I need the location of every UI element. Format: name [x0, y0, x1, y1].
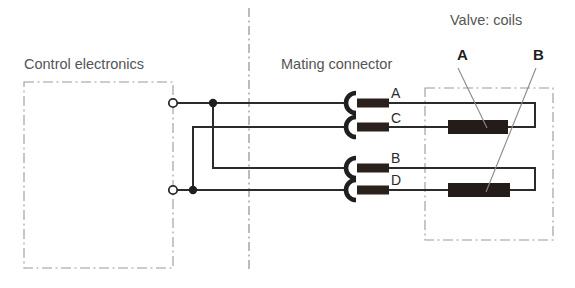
wiring-diagram	[0, 0, 575, 288]
coil-a-winding	[448, 120, 508, 134]
control-electronics-label: Control electronics	[24, 56, 144, 72]
terminal-upper	[169, 99, 177, 107]
junction-lower	[189, 186, 197, 194]
coil-label-a: A	[457, 46, 468, 63]
junction-upper	[209, 99, 217, 107]
coil-label-b: B	[533, 46, 544, 63]
canvas-background	[0, 0, 575, 288]
pin-label-a: A	[391, 85, 400, 101]
terminal-lower	[169, 186, 177, 194]
pin-label-d: D	[391, 172, 401, 188]
coil-b-winding	[448, 183, 510, 197]
mating-connector-label: Mating connector	[281, 56, 392, 72]
valve-coils-label: Valve: coils	[450, 12, 522, 28]
pin-label-c: C	[391, 110, 401, 126]
pin-label-b: B	[391, 150, 400, 166]
